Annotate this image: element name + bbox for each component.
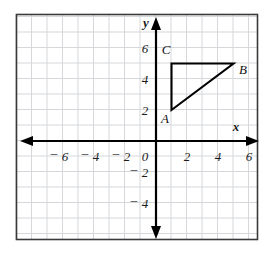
coordinate-plane-svg: x y – 6 – 4 – 2 0 2 4 6 6 4 2 xyxy=(0,0,276,255)
y-tick-label-2: 2 xyxy=(142,103,149,118)
svg-text:6: 6 xyxy=(62,149,69,164)
vertex-label-a: A xyxy=(160,111,169,126)
y-tick-label-6: 6 xyxy=(142,41,149,56)
y-axis-label: y xyxy=(141,15,149,30)
minus-sign-icon: – xyxy=(112,145,120,160)
x-tick-label-2: 2 xyxy=(184,149,191,164)
svg-text:4: 4 xyxy=(93,149,100,164)
coordinate-plane-figure: x y – 6 – 4 – 2 0 2 4 6 6 4 2 xyxy=(0,0,276,255)
y-tick-label-4: 4 xyxy=(142,72,149,87)
svg-text:4: 4 xyxy=(142,196,149,211)
minus-sign-icon: – xyxy=(130,161,138,176)
minus-sign-icon: – xyxy=(81,145,89,160)
svg-text:2: 2 xyxy=(124,149,131,164)
x-axis-label: x xyxy=(232,119,240,134)
minus-sign-icon: – xyxy=(50,145,58,160)
x-tick-label-6: 6 xyxy=(246,149,253,164)
svg-text:2: 2 xyxy=(142,165,149,180)
vertex-label-c: C xyxy=(162,42,171,57)
minus-sign-icon: – xyxy=(130,192,138,207)
vertex-label-b: B xyxy=(239,62,247,77)
x-tick-label-4: 4 xyxy=(215,149,222,164)
x-tick-label-origin: 0 xyxy=(142,149,149,164)
